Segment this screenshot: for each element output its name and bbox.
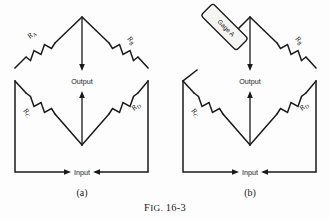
panel-a-arm-upper-left [15,17,82,68]
panel-b-output-label: Output [239,77,261,86]
panel-a-resistor-rc-label: RC [20,105,34,119]
panel-b-arm-lower-right [250,81,316,145]
panel-b-arm-upper-left [183,3,250,81]
panel-a: RA RB RC RD Output Input (a) [15,17,148,199]
panel-b-caption: (b) [244,187,256,199]
panel-a-resistor-ra-label: RA [24,28,38,42]
panel-a-resistor-rb-label: RB [124,33,138,47]
panel-a-input-label: Input [74,168,90,177]
panel-a-arm-upper-right [82,17,148,68]
panel-a-caption: (a) [76,187,87,199]
panel-b: Gage A RB RC RD Output Input (b) [183,3,316,199]
figure-caption: FIG. 16-3 [144,202,186,213]
panel-b-resistor-rd-label: RD [296,100,310,114]
panel-a-arm-lower-right [82,81,148,145]
panel-b-resistor-rb-label: RB [292,33,306,47]
figure-16-3: RA RB RC RD Output Input (a) [0,0,330,219]
panel-b-input-label: Input [242,168,258,177]
panel-b-arm-upper-right [250,17,316,68]
panel-a-resistor-rd-label: RD [128,100,142,114]
panel-b-resistor-rc-label: RC [188,105,202,119]
panel-a-output-label: Output [71,77,93,86]
